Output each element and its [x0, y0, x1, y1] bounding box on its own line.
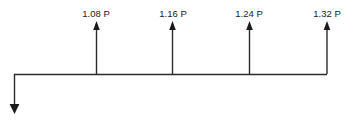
reaction-arrowhead-icon [10, 104, 20, 114]
force-arrow-1 [93, 21, 100, 74]
force-arrow-4 [324, 21, 331, 74]
diagram-canvas: 1.08 P 1.16 P 1.24 P 1.32 P [0, 0, 356, 127]
force-arrow-2 [169, 21, 176, 74]
force-arrowhead-icon [324, 21, 331, 30]
force-label-1: 1.08 P [82, 8, 109, 19]
force-arrowhead-icon [93, 21, 100, 30]
force-label-3: 1.24 P [235, 8, 262, 19]
force-arrowhead-icon [169, 21, 176, 30]
force-arrowhead-icon [246, 21, 253, 30]
force-label-2: 1.16 P [159, 8, 186, 19]
force-arrow-3 [246, 21, 253, 74]
force-label-4: 1.32 P [313, 8, 340, 19]
load-diagram: 1.08 P 1.16 P 1.24 P 1.32 P [0, 0, 356, 127]
reaction-arrow-down [10, 74, 20, 114]
